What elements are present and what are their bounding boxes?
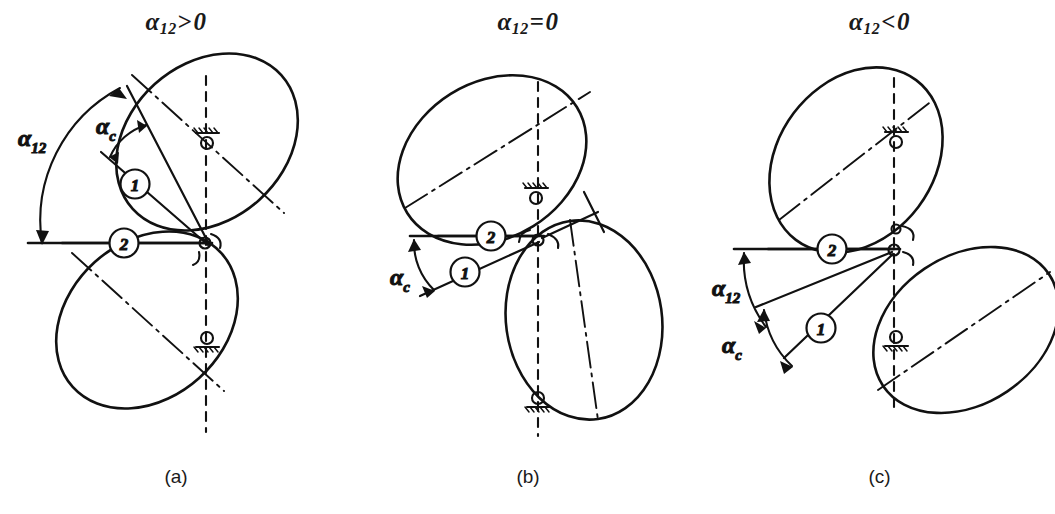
alpha-c-label-alpha: α [96,113,110,139]
alpha-12-arc [40,88,120,243]
ellipse-2-major-axis [779,100,933,220]
panel-c: α12<0 [704,0,1055,514]
panel-c-drawing: 1 2 α12 αc [704,0,1055,514]
alpha-12-label-sub: 12 [31,140,47,156]
alpha-12-label: α12 [712,275,741,306]
alpha-c-label-alpha: α [390,264,404,290]
callout-balloon-1[interactable]: 1 [807,314,836,343]
pivot-symbol-link-1 [883,331,908,351]
callout-balloon-2[interactable]: 2 [110,229,139,258]
alpha-c-label-sub: c [735,347,742,363]
alpha-c-label-sub: c [403,279,410,295]
callout-1-label: 1 [131,176,140,195]
callout-1-label: 1 [461,264,470,283]
alpha-12-label-sub: 12 [725,290,741,306]
callout-balloon-2[interactable]: 2 [818,235,847,264]
link-1-callout-line [784,254,893,358]
figure-root: α12>0 [0,0,1055,514]
callout-balloon-2[interactable]: 2 [477,222,506,251]
callout-1-label: 1 [817,320,826,339]
alpha-c-arrow-1 [408,239,421,252]
alpha-12-arrow-1 [738,252,751,265]
panel-a-drawing: 1 2 α12 αc [0,0,352,514]
ellipse-1-major-axis [132,75,284,213]
callout-2-label: 2 [486,228,496,247]
alpha-c-label-alpha: α [722,332,736,358]
ellipse-2-major-axis [405,92,590,208]
panel-a: α12>0 [0,0,352,514]
alpha-c-label-sub: c [109,128,116,144]
alpha-c-label: αc [722,332,742,363]
panel-b: α12=0 [352,0,704,514]
panel-b-drawing: 1 2 αc [352,0,704,514]
ellipse-1-major-axis [570,220,598,420]
alpha-12-label: α12 [18,125,47,156]
callout-balloon-1[interactable]: 1 [451,258,480,287]
callout-balloon-1[interactable]: 1 [121,170,150,199]
common-normal-extension [584,192,604,232]
alpha-12-label-alpha: α [712,275,726,301]
alpha-c-label: αc [390,264,410,295]
common-normal-line [127,86,209,244]
panel-c-caption: (c) [704,466,1055,488]
alpha-c-label: αc [96,113,116,144]
callout-2-label: 2 [827,241,837,260]
alpha-c-arrow-2 [780,361,793,374]
contact-point [889,225,914,266]
callout-2-label: 2 [119,235,129,254]
alpha-12-label-alpha: α [18,125,32,151]
panel-b-caption: (b) [352,466,704,488]
pivot-symbol-link-2 [523,183,548,204]
panel-a-caption: (a) [0,466,352,488]
ellipse-2-major-axis [72,253,224,391]
pivot-symbol-link-2 [883,127,908,148]
ellipse-1-major-axis [878,272,1050,390]
